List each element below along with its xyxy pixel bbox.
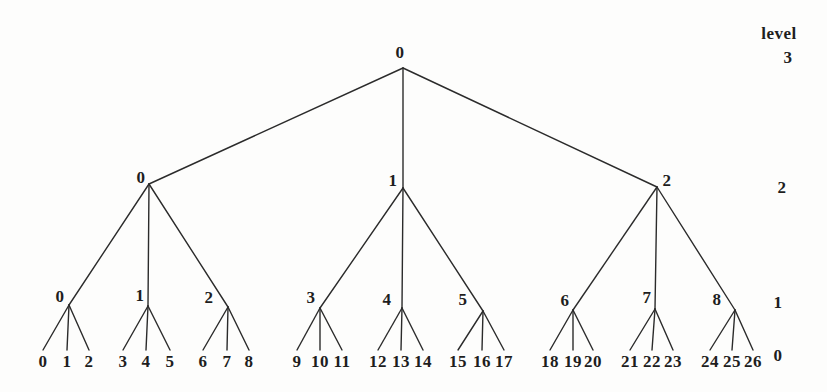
edge: [655, 309, 673, 350]
tree-leaf-14: 14: [414, 353, 432, 370]
tree-leaf-17: 17: [495, 353, 513, 370]
edge: [297, 308, 320, 350]
edge: [378, 308, 402, 350]
level-axis-label-0: 0: [774, 347, 783, 364]
tree-leaf-5: 5: [166, 353, 175, 370]
edge: [573, 310, 593, 350]
edge: [69, 305, 89, 350]
tree-leaf-1: 1: [63, 353, 72, 370]
tree-leaf-4: 4: [142, 353, 151, 370]
tree-leaf-0: 0: [39, 353, 48, 370]
tree-node-level1-0: 0: [56, 288, 65, 305]
edge: [458, 311, 483, 350]
tree-node-level1-5: 5: [459, 291, 468, 308]
tree-leaf-26: 26: [744, 353, 762, 370]
tree-node-level2-1: 1: [389, 172, 398, 189]
tree-node-level1-7: 7: [643, 289, 652, 306]
edge: [403, 188, 483, 311]
edge: [67, 305, 69, 350]
edge: [149, 184, 228, 307]
level-axis-title: level: [761, 25, 797, 42]
edge: [228, 307, 249, 350]
tree-node-level1-2: 2: [205, 289, 214, 306]
tree-leaf-20: 20: [584, 353, 602, 370]
tree-leaf-12: 12: [369, 353, 387, 370]
tree-node-level1-3: 3: [307, 289, 316, 306]
edge: [710, 310, 735, 350]
tree-leaf-16: 16: [473, 353, 491, 370]
edge: [227, 307, 228, 350]
tree-leaf-11: 11: [333, 353, 350, 370]
tree-leaf-13: 13: [392, 353, 410, 370]
edge: [732, 310, 735, 350]
tree-node-level3-0: 0: [396, 44, 405, 61]
edge: [735, 310, 753, 350]
ternary-tree-figure: 0 0 1 2 0 1 2 3 4 5 6 7 8 0 1 2 3 4 5 6 …: [0, 0, 827, 392]
edge: [203, 307, 228, 350]
edge: [402, 308, 423, 350]
tree-node-level1-8: 8: [713, 291, 722, 308]
tree-leaf-2: 2: [85, 353, 94, 370]
tree-leaf-22: 22: [643, 353, 661, 370]
edge: [148, 184, 149, 306]
tree-node-level2-2: 2: [663, 172, 672, 189]
tree-leaf-19: 19: [564, 353, 582, 370]
tree-node-level2-0: 0: [137, 169, 146, 186]
edge: [652, 309, 655, 350]
edge: [483, 311, 504, 350]
tree-node-level1-1: 1: [136, 287, 145, 304]
tree-leaf-21: 21: [621, 353, 639, 370]
tree-node-level1-6: 6: [561, 292, 570, 309]
tree-leaf-7: 7: [223, 353, 232, 370]
level-axis-label-2: 2: [778, 179, 787, 196]
edge: [630, 309, 655, 350]
edge: [320, 308, 342, 350]
edge: [43, 305, 69, 350]
level-axis-label-1: 1: [774, 294, 783, 311]
edge: [123, 306, 148, 350]
tree-leaf-9: 9: [293, 353, 302, 370]
tree-edges: [0, 0, 827, 392]
tree-leaf-15: 15: [449, 353, 467, 370]
edge: [482, 311, 483, 350]
edge: [148, 306, 170, 350]
tree-leaf-18: 18: [541, 353, 559, 370]
edge: [402, 188, 403, 308]
tree-leaf-3: 3: [119, 353, 128, 370]
tree-leaf-25: 25: [723, 353, 741, 370]
tree-leaf-24: 24: [701, 353, 719, 370]
tree-leaf-6: 6: [199, 353, 208, 370]
edge: [401, 308, 402, 350]
edge: [403, 68, 657, 187]
edge: [146, 306, 148, 350]
tree-leaf-8: 8: [245, 353, 254, 370]
tree-node-level1-4: 4: [383, 291, 392, 308]
tree-leaf-23: 23: [664, 353, 682, 370]
edge: [149, 68, 403, 184]
edge: [655, 187, 657, 309]
tree-leaf-10: 10: [311, 353, 329, 370]
edge: [657, 187, 735, 310]
level-axis-label-3: 3: [784, 49, 793, 66]
edge: [550, 310, 573, 350]
